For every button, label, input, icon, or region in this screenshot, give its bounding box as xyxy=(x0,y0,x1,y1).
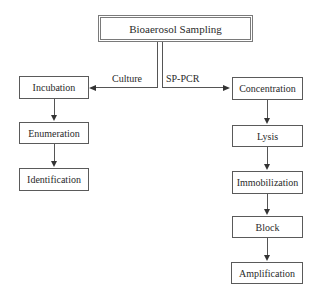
node-lysis: Lysis xyxy=(232,125,303,147)
node-label: Bioaerosol Sampling xyxy=(129,23,222,35)
node-enumeration: Enumeration xyxy=(19,122,89,144)
edge-enumeration-identification xyxy=(54,144,55,162)
node-concentration: Concentration xyxy=(232,77,303,100)
arrow-down-icon xyxy=(51,115,57,121)
node-label: Immobilization xyxy=(237,177,299,188)
arrow-down-icon xyxy=(51,161,57,167)
edge-incubation-enumeration xyxy=(54,99,55,116)
edge-sp-pcr-line xyxy=(162,87,224,88)
edge-lysis-immobilization xyxy=(267,147,268,165)
node-immobilization: Immobilization xyxy=(232,171,303,194)
arrow-down-icon xyxy=(264,164,270,170)
node-label: Identification xyxy=(27,174,81,185)
node-block: Block xyxy=(232,216,303,238)
node-label: Concentration xyxy=(239,83,296,94)
node-label: Block xyxy=(256,222,280,233)
node-amplification: Amplification xyxy=(231,262,303,284)
node-incubation: Incubation xyxy=(19,76,89,99)
edge-label-culture: Culture xyxy=(112,73,142,84)
connector-root-right xyxy=(162,42,163,88)
arrow-down-icon xyxy=(264,255,270,261)
arrow-left-icon xyxy=(89,85,96,91)
edge-immobilization-block xyxy=(267,194,268,210)
node-label: Lysis xyxy=(257,131,278,142)
node-label: Enumeration xyxy=(28,128,80,139)
edge-culture-line xyxy=(96,87,158,88)
edge-label-sp-pcr: SP-PCR xyxy=(166,73,199,84)
arrow-down-icon xyxy=(264,118,270,124)
node-bioaerosol-sampling: Bioaerosol Sampling xyxy=(98,15,253,42)
arrow-right-icon xyxy=(223,85,230,91)
connector-root-left xyxy=(157,42,158,88)
edge-concentration-lysis xyxy=(267,100,268,119)
node-label: Incubation xyxy=(33,82,76,93)
edge-block-amplification xyxy=(267,238,268,256)
arrow-down-icon xyxy=(264,209,270,215)
node-identification: Identification xyxy=(19,168,89,191)
node-label: Amplification xyxy=(239,268,295,279)
